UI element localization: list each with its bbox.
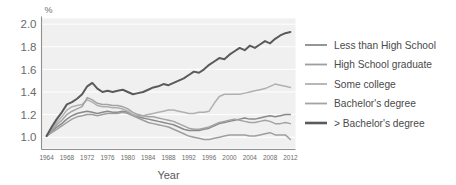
- y-tick-label: 1.6: [21, 64, 37, 76]
- y-tick-label: 1.2: [21, 109, 37, 121]
- legend-item-label: > Bachelor's degree: [334, 118, 425, 129]
- y-tick-label: 1.8: [21, 41, 37, 53]
- line-chart: 2.01.81.61.41.21.0 196419681972197619801…: [0, 0, 456, 185]
- legend-item-label: Bachelor's degree: [334, 98, 416, 109]
- x-axis-title: Year: [157, 169, 180, 181]
- x-tick-label: 1976: [100, 154, 115, 161]
- x-tick-label: 1992: [182, 154, 197, 161]
- x-tick-label: 2008: [263, 154, 278, 161]
- x-tick-labels-group: 1964196819721976198019841988199219962000…: [39, 154, 298, 161]
- plot-background-group: [42, 19, 296, 149]
- x-tick-label: 2000: [222, 154, 237, 161]
- legend: Less than High SchoolHigh School graduat…: [305, 40, 436, 129]
- x-tick-label: 1988: [161, 154, 176, 161]
- y-tick-labels-group: 2.01.81.61.41.21.0: [21, 18, 38, 143]
- x-tick-label: 2004: [243, 154, 258, 161]
- x-tick-label: 2012: [283, 154, 298, 161]
- y-tick-label: 1.0: [21, 131, 37, 143]
- chart-svg: 2.01.81.61.41.21.0 196419681972197619801…: [0, 0, 456, 185]
- legend-item-label: Some college: [334, 79, 396, 90]
- x-tick-label: 1984: [141, 154, 156, 161]
- x-tick-label: 1964: [39, 154, 54, 161]
- legend-item-label: High School graduate: [334, 59, 432, 70]
- x-tick-label: 1996: [202, 154, 217, 161]
- plot-area-background: [42, 19, 296, 149]
- y-tick-label: 1.4: [21, 86, 38, 98]
- y-tick-label: 2.0: [21, 18, 37, 30]
- percent-unit-label: %: [45, 5, 53, 15]
- x-tick-label: 1972: [80, 154, 95, 161]
- x-tick-label: 1980: [121, 154, 136, 161]
- x-tick-label: 1968: [60, 154, 75, 161]
- legend-item-label: Less than High School: [334, 40, 436, 51]
